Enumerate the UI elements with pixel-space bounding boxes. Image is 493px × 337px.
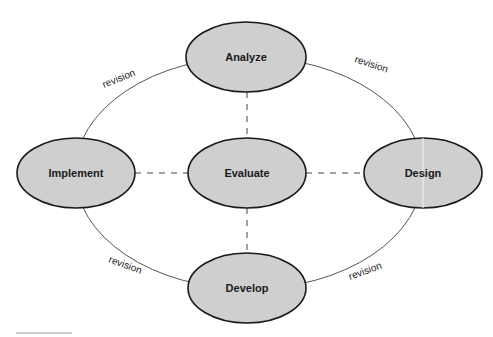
node-label-develop: Develop: [226, 282, 269, 294]
node-label-implement: Implement: [48, 167, 103, 179]
addie-cycle-diagram: revision revision revision revision Anal…: [0, 0, 493, 337]
edge-label-develop-implement: revision: [107, 254, 143, 276]
node-label-evaluate: Evaluate: [224, 167, 269, 179]
edge-label-analyze-design: revision: [353, 53, 389, 74]
node-develop: Develop: [188, 253, 306, 323]
node-label-analyze: Analyze: [225, 51, 267, 63]
node-evaluate: Evaluate: [188, 138, 306, 208]
node-label-design: Design: [405, 167, 442, 179]
node-analyze: Analyze: [186, 22, 306, 92]
node-design: Design: [364, 138, 482, 208]
edge-label-implement-analyze: revision: [101, 67, 137, 90]
edge-label-design-develop: revision: [347, 260, 383, 282]
node-implement: Implement: [17, 138, 135, 208]
